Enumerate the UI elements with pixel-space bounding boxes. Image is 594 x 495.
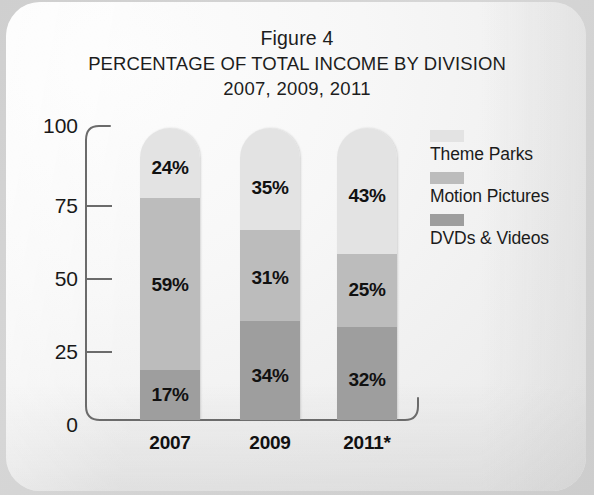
chart-legend: Theme Parks Motion Pictures DVDs & Video… [430,130,590,256]
bar-2007-label-theme-parks: 24% [140,157,200,179]
figure-number: Figure 4 [0,26,594,51]
y-tick-label-50: 50 [18,267,78,291]
y-tick-label-0: 0 [18,413,78,437]
bar-2011-label-dvds-videos: 32% [337,369,397,391]
figure-title: PERCENTAGE OF TOTAL INCOME BY DIVISION [0,51,594,76]
figure-titles: Figure 4 PERCENTAGE OF TOTAL INCOME BY D… [0,26,594,101]
legend-label-dvds-videos: DVDs & Videos [430,228,549,248]
legend-label-motion-pictures: Motion Pictures [430,186,549,206]
bar-2011-label-motion-pictures: 25% [337,279,397,301]
x-axis-label-2007: 2007 [115,432,225,454]
bar-2007-label-dvds-videos: 17% [140,384,200,406]
legend-item-theme-parks[interactable]: Theme Parks [430,130,590,165]
figure-subtitle-years: 2007, 2009, 2011 [0,76,594,101]
legend-item-dvds-videos[interactable]: DVDs & Videos [430,214,590,249]
legend-swatch-dvds-videos [430,214,464,226]
bar-2009-label-dvds-videos: 34% [240,365,300,387]
bar-2011-label-theme-parks: 43% [337,185,397,207]
x-axis-label-2011: 2011* [312,432,422,454]
legend-swatch-motion-pictures [430,172,464,184]
y-tick-label-100: 100 [18,114,78,138]
bar-2009-label-theme-parks: 35% [240,177,300,199]
legend-label-theme-parks: Theme Parks [430,144,533,164]
bar-2007-label-motion-pictures: 59% [140,274,200,296]
y-tick-label-25: 25 [18,340,78,364]
legend-item-motion-pictures[interactable]: Motion Pictures [430,172,590,207]
legend-swatch-theme-parks [430,130,464,142]
figure-page: Figure 4 PERCENTAGE OF TOTAL INCOME BY D… [0,0,594,495]
x-axis-label-2009: 2009 [215,432,325,454]
y-tick-label-75: 75 [18,194,78,218]
bar-2009-label-motion-pictures: 31% [240,267,300,289]
